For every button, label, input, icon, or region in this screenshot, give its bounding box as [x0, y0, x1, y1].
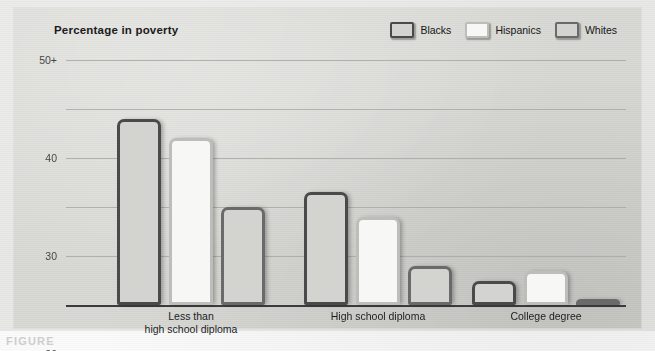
legend-swatch-icon — [555, 22, 579, 38]
plot-area: 01020304050+ — [66, 60, 626, 305]
bar-whites[interactable] — [221, 207, 265, 305]
figure-caption: FIGURE — [6, 335, 55, 347]
chart-panel: Percentage in poverty BlacksHispanicsWhi… — [14, 8, 641, 328]
bar-group — [304, 60, 452, 305]
legend-label: Hispanics — [495, 24, 541, 36]
y-axis-tick-label: 50+ — [39, 54, 57, 66]
x-label-line1: Less than — [101, 310, 281, 323]
x-axis-category-label: College degree — [456, 310, 636, 323]
x-axis-category-label: High school diploma — [288, 310, 468, 323]
bar-group — [117, 60, 265, 305]
scanned-figure-page: Percentage in poverty BlacksHispanicsWhi… — [0, 0, 655, 351]
legend-item-hispanics: Hispanics — [465, 22, 541, 38]
x-label-line1: High school diploma — [288, 310, 468, 323]
legend-item-blacks: Blacks — [390, 22, 451, 38]
figure-caption-strip: FIGURE — [0, 331, 655, 351]
bar-blacks[interactable] — [304, 192, 348, 305]
bar-group — [472, 60, 620, 305]
legend-swatch-icon — [465, 22, 489, 38]
legend-label: Blacks — [420, 24, 451, 36]
bar-blacks[interactable] — [117, 119, 161, 305]
bar-whites[interactable] — [576, 299, 620, 305]
x-axis-category-label: Less thanhigh school diploma — [101, 310, 281, 336]
bar-hispanics[interactable] — [356, 217, 400, 305]
y-axis-tick-label: 30 — [45, 250, 57, 262]
bar-hispanics[interactable] — [169, 138, 213, 305]
y-axis-tick-label: 40 — [45, 152, 57, 164]
bar-whites[interactable] — [408, 266, 452, 305]
x-label-line2: high school diploma — [101, 323, 281, 336]
x-label-line1: College degree — [456, 310, 636, 323]
legend-item-whites: Whites — [555, 22, 617, 38]
legend-swatch-icon — [390, 22, 414, 38]
chart-title: Percentage in poverty — [54, 24, 178, 36]
legend-label: Whites — [585, 24, 617, 36]
bar-hispanics[interactable] — [524, 271, 568, 305]
x-axis-line: 0 — [66, 305, 626, 307]
chart-legend: BlacksHispanicsWhites — [390, 22, 617, 38]
bar-blacks[interactable] — [472, 281, 516, 306]
